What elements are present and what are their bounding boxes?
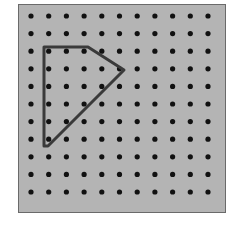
peg: [135, 119, 140, 124]
peg: [28, 101, 33, 106]
peg: [205, 49, 210, 54]
peg: [28, 154, 33, 159]
geoboard-canvas: [0, 0, 239, 236]
peg: [64, 172, 69, 177]
peg: [46, 66, 51, 71]
peg: [117, 13, 122, 18]
peg: [64, 154, 69, 159]
peg: [152, 154, 157, 159]
peg: [46, 137, 51, 142]
peg: [135, 189, 140, 194]
peg: [188, 154, 193, 159]
peg: [170, 154, 175, 159]
peg: [64, 66, 69, 71]
peg: [64, 101, 69, 106]
peg: [46, 172, 51, 177]
peg: [152, 189, 157, 194]
peg: [205, 84, 210, 89]
peg: [188, 49, 193, 54]
peg: [64, 189, 69, 194]
peg: [46, 189, 51, 194]
peg: [170, 137, 175, 142]
peg: [82, 172, 87, 177]
peg: [82, 66, 87, 71]
peg: [28, 119, 33, 124]
peg: [82, 31, 87, 36]
peg: [99, 172, 104, 177]
peg: [205, 31, 210, 36]
peg: [170, 189, 175, 194]
peg: [82, 101, 87, 106]
peg: [117, 49, 122, 54]
peg: [170, 101, 175, 106]
peg: [188, 13, 193, 18]
peg: [170, 31, 175, 36]
peg: [82, 189, 87, 194]
peg: [28, 13, 33, 18]
peg: [99, 13, 104, 18]
peg: [64, 13, 69, 18]
peg: [170, 119, 175, 124]
peg: [28, 31, 33, 36]
peg: [188, 172, 193, 177]
peg: [205, 189, 210, 194]
peg: [117, 137, 122, 142]
peg: [170, 13, 175, 18]
peg: [135, 13, 140, 18]
peg: [99, 189, 104, 194]
peg: [117, 172, 122, 177]
peg: [152, 137, 157, 142]
peg: [188, 66, 193, 71]
peg: [117, 154, 122, 159]
peg: [152, 172, 157, 177]
peg: [188, 84, 193, 89]
peg: [46, 49, 51, 54]
peg: [99, 101, 104, 106]
peg: [28, 189, 33, 194]
peg: [46, 31, 51, 36]
peg-grid: [28, 13, 210, 194]
peg: [152, 49, 157, 54]
peg: [28, 172, 33, 177]
peg: [135, 172, 140, 177]
peg: [117, 101, 122, 106]
peg: [152, 66, 157, 71]
rubber-band-shape: [44, 47, 124, 146]
peg: [46, 101, 51, 106]
peg: [82, 13, 87, 18]
peg: [152, 13, 157, 18]
peg: [82, 84, 87, 89]
peg: [205, 13, 210, 18]
peg: [46, 119, 51, 124]
peg: [64, 137, 69, 142]
peg: [152, 84, 157, 89]
peg: [170, 49, 175, 54]
peg: [170, 66, 175, 71]
peg: [135, 84, 140, 89]
peg: [188, 137, 193, 142]
peg: [99, 154, 104, 159]
peg: [152, 31, 157, 36]
peg: [188, 189, 193, 194]
peg: [135, 137, 140, 142]
peg: [82, 49, 87, 54]
peg: [99, 66, 104, 71]
peg: [205, 154, 210, 159]
peg: [82, 119, 87, 124]
peg: [170, 84, 175, 89]
peg: [99, 84, 104, 89]
peg: [188, 31, 193, 36]
peg: [99, 119, 104, 124]
peg: [46, 13, 51, 18]
peg: [64, 119, 69, 124]
peg: [135, 66, 140, 71]
peg: [117, 84, 122, 89]
peg: [188, 101, 193, 106]
peg: [28, 66, 33, 71]
peg: [135, 49, 140, 54]
peg: [64, 84, 69, 89]
peg: [135, 31, 140, 36]
peg: [64, 31, 69, 36]
peg: [117, 189, 122, 194]
peg: [205, 137, 210, 142]
